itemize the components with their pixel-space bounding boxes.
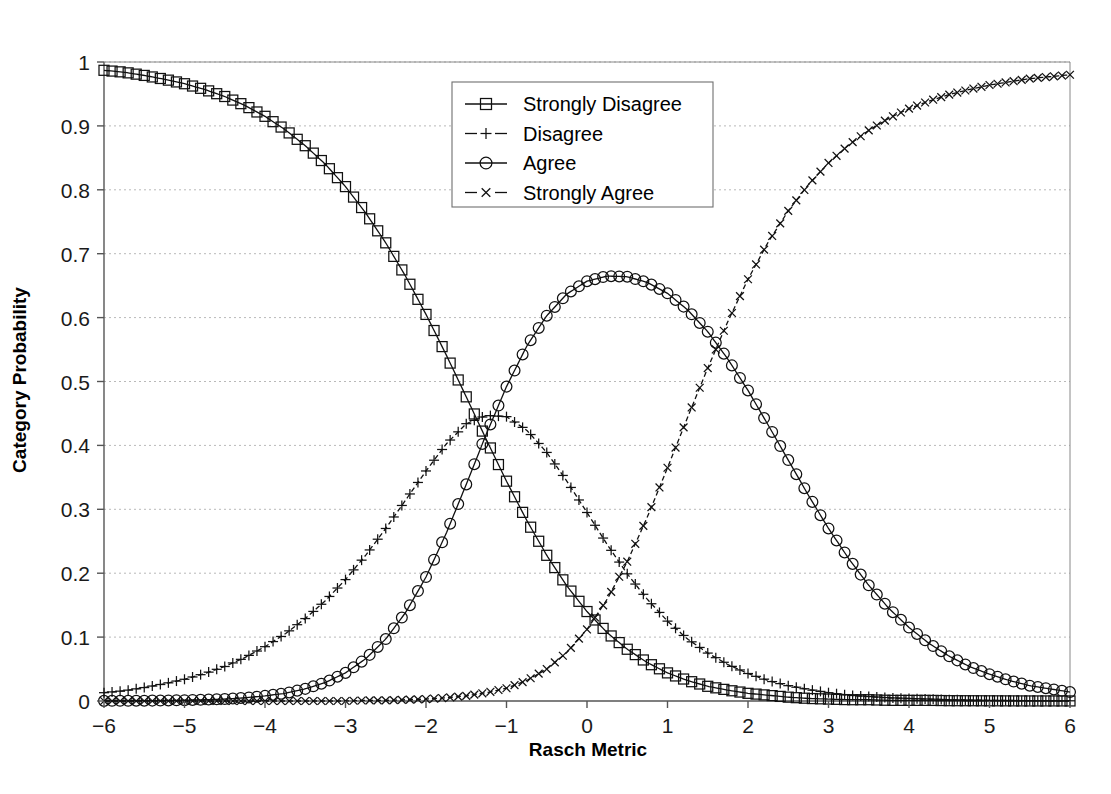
y-tick-label: 1: [78, 51, 90, 74]
y-tick-label: 0.6: [61, 307, 90, 330]
y-tick-label: 0.8: [61, 179, 90, 202]
y-axis-ticks: 00.10.20.30.40.50.60.70.80.91: [61, 51, 104, 713]
x-tick-label: 0: [581, 714, 593, 737]
x-tick-label: 4: [903, 714, 915, 737]
legend-label: Disagree: [523, 123, 603, 145]
x-tick-label: −6: [92, 714, 116, 737]
chart-legend: Strongly DisagreeDisagreeAgreeStrongly A…: [452, 82, 713, 207]
legend-label: Strongly Disagree: [523, 93, 682, 115]
markers-agree: [99, 271, 1076, 706]
category-probability-chart: −6−5−4−3−2−10123456 00.10.20.30.40.50.60…: [0, 0, 1111, 794]
legend-label: Agree: [523, 152, 576, 174]
x-tick-label: 5: [984, 714, 996, 737]
x-tick-label: 6: [1064, 714, 1076, 737]
y-tick-label: 0.4: [61, 434, 91, 457]
markers-disagree: [99, 411, 1075, 706]
x-tick-label: 3: [823, 714, 835, 737]
x-axis-label: Rasch Metric: [529, 739, 648, 760]
x-tick-label: −5: [173, 714, 197, 737]
y-tick-label: 0.2: [61, 562, 90, 585]
y-tick-label: 0.9: [61, 115, 90, 138]
x-tick-label: −3: [334, 714, 358, 737]
x-tick-label: 1: [662, 714, 674, 737]
y-tick-label: 0.3: [61, 498, 90, 521]
y-tick-label: 0.1: [61, 626, 90, 649]
x-tick-label: −2: [414, 714, 438, 737]
x-axis-ticks: −6−5−4−3−2−10123456: [92, 701, 1076, 737]
y-tick-label: 0.7: [61, 243, 90, 266]
x-tick-label: −4: [253, 714, 277, 737]
y-axis-label: Category Probability: [9, 287, 30, 473]
y-tick-label: 0.5: [61, 371, 90, 394]
legend-label: Strongly Agree: [523, 182, 654, 204]
y-tick-label: 0: [78, 690, 90, 713]
x-tick-label: −1: [495, 714, 519, 737]
chart-page: −6−5−4−3−2−10123456 00.10.20.30.40.50.60…: [0, 0, 1111, 794]
x-tick-label: 2: [742, 714, 754, 737]
